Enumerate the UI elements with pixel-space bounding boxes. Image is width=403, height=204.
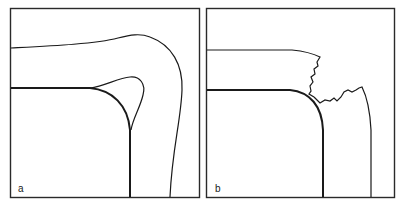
panel-b-frame xyxy=(207,9,395,198)
panel-a-loop-line xyxy=(90,77,144,130)
figure-canvas: a b xyxy=(0,0,403,204)
panel-a-frame xyxy=(11,9,200,198)
panel-a-substrate-edge xyxy=(11,88,130,197)
panel-b-substrate-edge xyxy=(207,90,323,197)
panel-b-label: b xyxy=(215,183,221,194)
panel-a-label: a xyxy=(18,183,24,194)
panel-a: a xyxy=(11,9,200,198)
panel-b: b xyxy=(207,9,395,198)
panel-a-outer-layer-line xyxy=(11,35,182,197)
